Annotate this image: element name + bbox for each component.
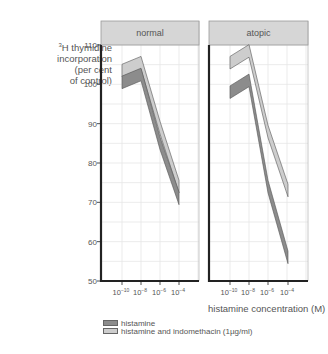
x-tick-label: 10−6	[152, 287, 166, 298]
legend-swatch	[103, 320, 118, 326]
x-tick-label: 10−6	[260, 287, 274, 298]
y-tick-label: 90	[88, 120, 97, 129]
y-tick-label: 80	[88, 159, 97, 168]
y-tick-label: 110	[84, 41, 97, 50]
y-tick-label: 70	[88, 198, 97, 207]
x-tick-label: 10−8	[241, 287, 255, 298]
legend-label: histamine and indomethacin (1µg/ml)	[121, 327, 252, 336]
panel-title: normal	[136, 28, 164, 38]
x-tick-label: 10−4	[171, 287, 185, 298]
y-tick-label: 60	[88, 238, 97, 247]
legend: histamine histamine and indomethacin (1µ…	[103, 319, 252, 335]
y-tick-label: 50	[88, 277, 97, 286]
y-tick-label: 100	[84, 80, 98, 89]
chart-canvas: 5060708090100110normal10−1010−810−610−4a…	[0, 0, 328, 354]
x-tick-label: 10−4	[280, 287, 294, 298]
panel-title: atopic	[246, 28, 271, 38]
x-tick-label: 10−10	[113, 287, 130, 298]
panel-atopic: atopic10−1010−810−610−4	[208, 21, 308, 297]
legend-swatch	[103, 328, 118, 334]
x-tick-label: 10−10	[221, 287, 238, 298]
x-axis-label: histamine concentration (M)	[208, 303, 325, 314]
x-tick-label: 10−8	[133, 287, 147, 298]
legend-item-histamine-indomethacin: histamine and indomethacin (1µg/ml)	[103, 327, 252, 335]
panel-normal: normal10−1010−810−610−4	[97, 21, 199, 297]
series-band	[230, 45, 288, 197]
